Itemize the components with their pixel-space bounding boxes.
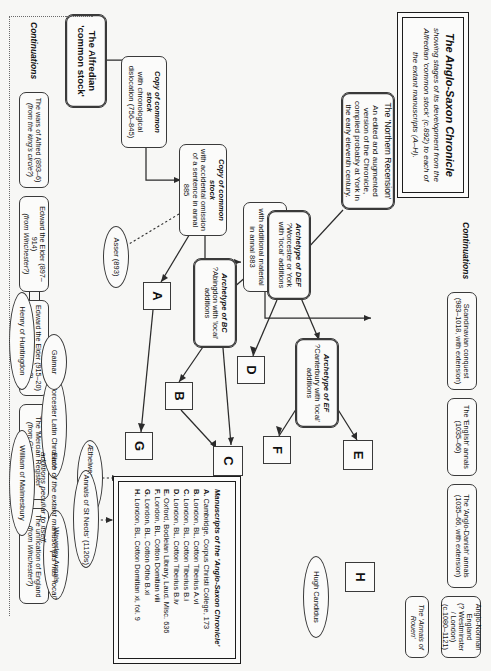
sigil-box-D[interactable]: D xyxy=(237,356,265,384)
derivative-asser[interactable]: Asser (893) xyxy=(103,226,129,288)
manuscript-text-A: Cambridge, Corpus Christi College, 173 xyxy=(202,498,211,629)
derivative-stneots[interactable]: 'Annals of St Neots' (1120s) xyxy=(73,470,99,568)
wire-bc-to-C xyxy=(223,348,231,445)
wire-omission-to-A xyxy=(161,232,191,282)
node-archetype-ef[interactable]: Archetype of EF ?Canterbury with 'local'… xyxy=(295,338,339,428)
continuation-right-item-4[interactable]: Anglo-Norman England (? Westminster / Lo… xyxy=(441,596,481,658)
sigil-box-H[interactable]: H xyxy=(345,562,375,592)
manuscript-text-H: London, BL, Cotton Domitian xi, fol. 9 xyxy=(133,498,142,620)
continuation-right-item-5[interactable]: The 'Annals of Rouen' xyxy=(405,596,429,658)
continuation-right-item-4-main: Anglo-Norman England xyxy=(465,601,482,653)
node-copy-omission-sub: with accidental omission of a sentence i… xyxy=(181,149,207,231)
continuation-right-item-2[interactable]: The 'English' annals (1035–66) xyxy=(447,398,477,476)
sigil-label-H: H xyxy=(353,572,368,581)
manuscript-entry-F: F. London, BL, Cotton Domitian viii xyxy=(152,489,162,651)
continuation-right-item-4-sub: (? Westminster / London) (c.1080–1121) xyxy=(440,601,465,653)
sigil-box-C[interactable]: C xyxy=(213,446,243,476)
title-panel: The Anglo-Saxon Chronicle showing stages… xyxy=(397,12,469,198)
node-copy-omission-title: Copy of common stock xyxy=(207,149,224,231)
manuscript-text-B: London, BL, Cotton Tiberius A.vi xyxy=(192,498,201,604)
manuscript-text-F: London, BL, Cotton Domitian viii xyxy=(153,497,162,603)
wire-B-to-C xyxy=(181,410,216,448)
node-copy-chronological-title: Copy of common stock xyxy=(144,61,161,143)
manuscript-sigil-B: B. xyxy=(192,489,201,496)
manuscript-sigil-E: E. xyxy=(163,489,172,496)
manuscript-entry-C: C. London, BL, Cotton Tiberius B.i xyxy=(181,489,191,651)
node-copy-chronological-sub: with chronological dislocation (756–845) xyxy=(127,61,144,143)
node-copy-chronological[interactable]: Copy of common stock with chronological … xyxy=(121,56,167,148)
manuscript-text-E: Oxford, Bodleian Library, Laud. Misc. 63… xyxy=(163,498,172,633)
sigil-box-F[interactable]: F xyxy=(263,436,291,464)
manuscript-sigil-F: F. xyxy=(153,489,162,495)
continuations-left-enclosure-stem xyxy=(65,16,93,17)
node-northern-recension[interactable]: The 'Northern Recension' An edited and a… xyxy=(341,92,395,210)
sigil-label-E: E xyxy=(351,451,366,460)
node-northern-recension-title: The 'Northern Recension' xyxy=(382,103,392,200)
sigil-label-C: C xyxy=(221,456,236,465)
manuscript-entry-H: H. London, BL, Cotton Domitian xi, fol. … xyxy=(132,489,142,651)
manuscripts-panel: Manuscripts of the 'Anglo-Saxon Chronicl… xyxy=(113,476,241,664)
node-copy-omission[interactable]: Copy of common stock with accidental omi… xyxy=(179,144,227,236)
continuations-right-label: Continuations xyxy=(461,222,471,279)
manuscript-entry-E: E. Oxford, Bodleian Library, Laud. Misc.… xyxy=(162,489,172,651)
manuscript-sigil-D: D. xyxy=(172,489,181,496)
wire-A-to-G xyxy=(141,310,153,432)
manuscript-entry-A: A. Cambridge, Corpus Christi College, 17… xyxy=(201,489,211,651)
sigil-label-F: F xyxy=(270,446,285,454)
node-archetype-bc[interactable]: Archetype of BC ?Abingdon with 'local' a… xyxy=(193,258,237,348)
node-archetype-bc-sub: ?Abingdon with 'local' additions xyxy=(202,263,219,343)
node-alfredian-common-stock[interactable]: The Alfredian 'common stock' xyxy=(65,14,107,108)
page-title: The Anglo-Saxon Chronicle xyxy=(444,25,456,185)
manuscript-sigil-A: A. xyxy=(202,489,211,496)
sigil-label-A: A xyxy=(150,291,165,300)
manuscript-text-D: London, BL, Cotton Tiberius B.iv xyxy=(172,498,181,604)
manuscript-text-C: London, BL, Cotton Tiberius B.i xyxy=(182,498,191,600)
manuscript-entry-B: B. London, BL, Cotton Tiberius A.vi xyxy=(191,489,201,651)
manuscript-text-G: London, BL, Cotton Otho B.xi xyxy=(143,499,152,595)
node-archetype-def[interactable]: Archetype of DEF ?Worcester or York with… xyxy=(267,210,311,300)
diagram-canvas: The Anglo-Saxon Chronicle showing stages… xyxy=(0,0,491,671)
page-subtitle: showing stages of its development from t… xyxy=(410,25,441,185)
manuscript-sigil-G: G. xyxy=(143,489,152,497)
continuation-right-item-1-sub: (983–1018, with extension) xyxy=(454,298,462,384)
node-copy-additional-sub: with additional material in annal 883 xyxy=(248,207,265,287)
derivative-hugh[interactable]: Hugh Candidus xyxy=(303,556,329,638)
continuation-right-item-3-sub: (1035–66, with extension) xyxy=(454,495,462,577)
manuscripts-panel-title: Manuscripts of the 'Anglo-Saxon Chronicl… xyxy=(213,489,222,651)
sigil-label-B: B xyxy=(172,391,187,400)
node-archetype-def-sub: ?Worcester or York with 'local' addition… xyxy=(276,215,293,295)
sigil-box-E[interactable]: E xyxy=(343,440,373,470)
wire-chronological-to-omission xyxy=(146,148,181,180)
sigil-label-D: D xyxy=(244,365,259,374)
continuation-right-item-3[interactable]: The 'Anglo-Danish' annals (1035–66, with… xyxy=(447,484,477,588)
manuscript-entry-G: G. London, BL, Cotton Otho B.xi xyxy=(142,489,152,651)
continuation-right-item-2-sub: (1035–66) xyxy=(454,421,462,454)
manuscript-entry-D: D. London, BL, Cotton Tiberius B.iv xyxy=(172,489,182,651)
node-archetype-ef-sub: ?Canterbury with 'local' additions xyxy=(304,343,321,423)
continuations-left-enclosure xyxy=(9,16,67,616)
continuation-right-item-2-main: The 'English' annals xyxy=(462,405,470,469)
sigil-label-G: G xyxy=(132,441,147,451)
continuation-right-item-1[interactable]: Scandinavian conquest (983–1018, with ex… xyxy=(447,292,477,390)
node-northern-recension-sub: An edited and augmented version of the C… xyxy=(344,99,381,203)
continuation-right-item-5-main: The 'Annals of Rouen' xyxy=(409,601,426,653)
derivative-hugh-label: Hugh Candidus xyxy=(312,571,321,623)
sigil-box-A[interactable]: A xyxy=(143,282,171,310)
node-archetype-def-title: Archetype of DEF xyxy=(293,223,302,287)
node-archetype-ef-title: Archetype of EF xyxy=(321,354,330,412)
derivative-asser-label: Asser (893) xyxy=(112,238,121,277)
sigil-box-B[interactable]: B xyxy=(165,382,193,410)
continuation-right-item-1-main: Scandinavian conquest xyxy=(462,304,470,378)
derivative-stneots-label: 'Annals of St Neots' (1120s) xyxy=(82,473,91,565)
sigil-box-G[interactable]: G xyxy=(125,432,153,460)
node-archetype-bc-title: Archetype of BC xyxy=(219,273,228,333)
node-alfredian-line1: The Alfredian xyxy=(86,31,97,91)
continuation-right-item-3-main: The 'Anglo-Danish' annals xyxy=(462,494,470,577)
manuscript-sigil-C: C. xyxy=(182,489,191,496)
node-alfredian-line2: 'common stock' xyxy=(75,25,86,97)
manuscript-sigil-H: H. xyxy=(133,489,142,496)
